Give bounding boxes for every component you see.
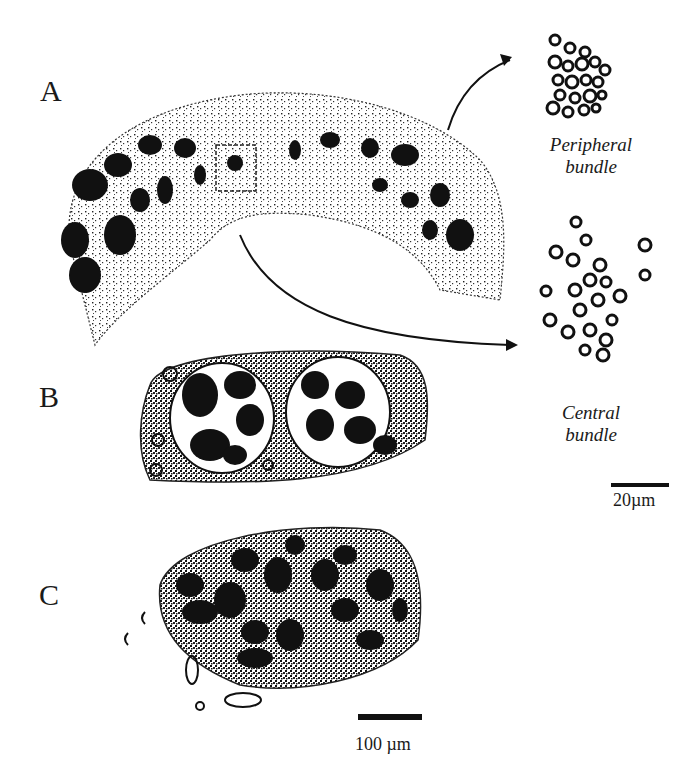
panel-label-c: C [39,578,59,612]
central-bundle-image [541,217,651,361]
panel-c-section [125,527,421,710]
main-scale-bar [358,714,422,720]
central-caption-line2: bundle [536,424,646,446]
peripheral-caption-line1: Peripheral [536,134,646,156]
peripheral-caption-line2: bundle [536,156,646,178]
panel-label-b: B [39,380,59,414]
arrow-head-central [506,339,518,351]
peripheral-bundle-image [547,35,610,117]
inset-scale-bar [611,483,669,487]
main-scale-label: 100 µm [355,734,411,755]
inset-scale-label: 20µm [613,490,655,511]
figure-artwork [0,0,696,780]
central-caption-line1: Central [536,402,646,424]
peripheral-bundle-caption: Peripheral bundle [536,134,646,178]
panel-a-section [61,93,504,345]
central-bundle-caption: Central bundle [536,402,646,446]
panel-b-section [141,351,428,482]
panel-label-a: A [40,74,62,108]
